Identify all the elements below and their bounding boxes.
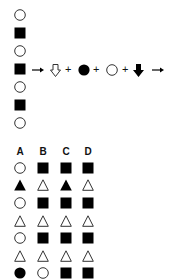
filled-square-icon	[37, 162, 49, 174]
filled-square-icon	[60, 232, 72, 244]
filled-circle-icon	[78, 64, 90, 76]
plus-sign: +	[93, 63, 99, 75]
hollow-circle-icon	[106, 64, 118, 76]
hollow-circle-icon	[14, 45, 26, 57]
option-label-d: D	[81, 146, 95, 157]
hollow-circle-icon	[14, 117, 26, 129]
filled-square-icon	[37, 232, 49, 244]
hollow-down-arrow-icon	[50, 64, 61, 77]
plus-sign: +	[65, 63, 71, 75]
hollow-triangle-icon	[60, 215, 72, 227]
filled-square-icon	[82, 162, 94, 174]
option-label-c: C	[59, 146, 73, 157]
hollow-circle-icon	[14, 9, 26, 21]
hollow-triangle-icon	[82, 215, 94, 227]
filled-square-icon	[82, 197, 94, 209]
hollow-triangle-icon	[37, 179, 49, 191]
filled-triangle-icon	[60, 179, 72, 191]
hollow-triangle-icon	[60, 250, 72, 262]
filled-square-icon	[82, 232, 94, 244]
option-label-a: A	[13, 146, 27, 157]
filled-square-icon	[37, 197, 49, 209]
hollow-circle-icon	[14, 81, 26, 93]
filled-square-icon	[14, 99, 26, 111]
filled-square-icon	[14, 27, 26, 39]
hollow-circle-icon	[14, 197, 26, 209]
hollow-triangle-icon	[37, 215, 49, 227]
hollow-triangle-icon	[37, 250, 49, 262]
hollow-circle-icon	[14, 232, 26, 244]
filled-square-icon	[60, 267, 72, 279]
filled-square-icon	[82, 267, 94, 279]
hollow-circle-icon	[37, 267, 49, 279]
filled-square-icon	[60, 162, 72, 174]
hollow-circle-icon	[14, 162, 26, 174]
filled-square-icon	[60, 197, 72, 209]
option-label-b: B	[36, 146, 50, 157]
filled-down-arrow-icon	[133, 64, 144, 77]
filled-circle-icon	[14, 267, 26, 279]
hollow-triangle-icon	[14, 250, 26, 262]
arrow-right-icon	[32, 66, 44, 74]
plus-sign: +	[122, 63, 128, 75]
hollow-triangle-icon	[14, 215, 26, 227]
arrow-right-icon	[152, 66, 164, 74]
hollow-triangle-icon	[82, 250, 94, 262]
filled-triangle-icon	[14, 179, 26, 191]
hollow-triangle-icon	[82, 179, 94, 191]
filled-square-icon	[14, 63, 26, 75]
